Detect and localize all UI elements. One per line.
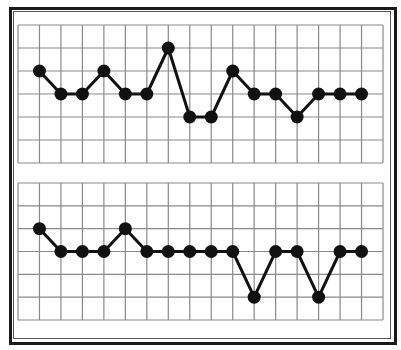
data-point-marker <box>226 65 239 78</box>
data-point-marker <box>248 291 261 304</box>
data-point-marker <box>119 88 132 101</box>
line-charts <box>0 0 401 350</box>
data-point-marker <box>97 245 110 258</box>
data-point-marker <box>248 88 261 101</box>
series-line <box>39 229 361 297</box>
series-line <box>39 48 361 117</box>
data-point-marker <box>33 65 46 78</box>
data-point-marker <box>33 222 46 235</box>
data-point-marker <box>312 88 325 101</box>
data-point-marker <box>334 245 347 258</box>
data-point-marker <box>76 88 89 101</box>
data-point-marker <box>291 245 304 258</box>
data-point-marker <box>334 88 347 101</box>
data-point-marker <box>291 111 304 124</box>
data-point-marker <box>269 245 282 258</box>
data-point-marker <box>226 245 239 258</box>
data-point-marker <box>76 245 89 258</box>
data-point-marker <box>183 111 196 124</box>
data-point-marker <box>183 245 196 258</box>
data-point-marker <box>140 245 153 258</box>
data-point-marker <box>269 88 282 101</box>
data-point-marker <box>162 42 175 55</box>
data-point-marker <box>54 88 67 101</box>
data-point-marker <box>205 245 218 258</box>
data-point-marker <box>312 291 325 304</box>
data-point-marker <box>54 245 67 258</box>
data-point-marker <box>119 222 132 235</box>
data-point-marker <box>140 88 153 101</box>
chart-panel-2 <box>18 183 383 320</box>
data-point-marker <box>162 245 175 258</box>
data-point-marker <box>355 245 368 258</box>
chart-panel-1 <box>18 25 383 163</box>
data-point-marker <box>205 111 218 124</box>
data-point-marker <box>97 65 110 78</box>
data-point-marker <box>355 88 368 101</box>
